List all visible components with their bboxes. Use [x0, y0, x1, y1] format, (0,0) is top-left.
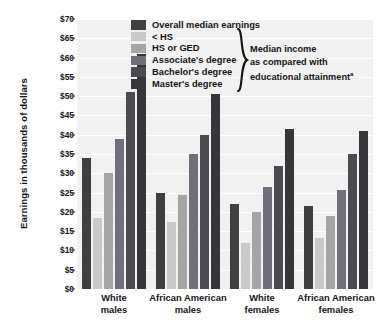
y-axis-tick-label: $70 [28, 14, 74, 24]
bar [126, 92, 136, 289]
y-axis-tick-mark [71, 96, 75, 97]
y-axis-tick-mark [71, 134, 75, 135]
y-axis-tick-mark [71, 38, 75, 39]
legend-item[interactable]: Overall median earnings [131, 19, 281, 31]
annotation-line-3-wrap: educational attainmenta [250, 68, 353, 84]
bar [326, 216, 336, 289]
y-axis-tick-mark [71, 192, 75, 193]
y-axis-tick-label: $15 [28, 226, 74, 236]
bar-chart: Earnings in thousands of dollars $0$5$10… [0, 0, 377, 335]
y-axis-tick-mark [71, 154, 75, 155]
bar [115, 139, 125, 289]
bar [156, 193, 166, 289]
y-axis-tick-label: $10 [28, 245, 74, 255]
y-axis-tick-label: $60 [28, 53, 74, 63]
bar [230, 204, 240, 289]
y-axis-tick-label: $30 [28, 168, 74, 178]
y-axis-tick-label: $50 [28, 91, 74, 101]
legend-swatch-icon [131, 56, 146, 66]
bar [241, 243, 251, 289]
y-axis-title: Earnings in thousands of dollars [18, 34, 29, 274]
bar [211, 94, 221, 289]
y-axis-tick-mark [71, 57, 75, 58]
y-axis-tick-mark [71, 173, 75, 174]
bar [200, 135, 210, 289]
bar [348, 154, 358, 289]
y-axis-tick-mark [71, 289, 75, 290]
annotation-line-1: Median income [250, 43, 353, 56]
bar [104, 173, 114, 289]
legend-annotation: Median income as compared with education… [250, 43, 353, 84]
legend-label: Bachelor's degree [152, 67, 232, 77]
y-axis-tick-label: $35 [28, 149, 74, 159]
y-axis-tick-label: $55 [28, 72, 74, 82]
legend-label: Associate's degree [152, 55, 236, 65]
bar [315, 238, 325, 289]
footnote-marker: a [350, 71, 353, 77]
y-axis-tick-mark [71, 211, 75, 212]
y-axis-tick-mark [71, 115, 75, 116]
bar [252, 212, 262, 289]
y-axis-tick-mark [71, 231, 75, 232]
bar [337, 190, 347, 290]
bar [359, 131, 369, 289]
bar [189, 154, 199, 289]
x-axis-label-line: females [289, 304, 377, 316]
y-axis-tick-label: $40 [28, 130, 74, 140]
legend-swatch-icon [131, 67, 146, 77]
y-axis-tick-mark [71, 250, 75, 251]
x-axis-label: African Americanfemales [289, 292, 377, 315]
y-axis-tick-mark [71, 19, 75, 20]
legend-label: HS or GED [152, 43, 200, 53]
y-axis-tick-label: $45 [28, 110, 74, 120]
y-axis-tick-mark [71, 76, 75, 77]
bar [178, 195, 188, 289]
legend-swatch-icon [131, 44, 146, 54]
y-axis-tick-label: $25 [28, 188, 74, 198]
bar [263, 187, 273, 289]
legend-item[interactable]: < HS [131, 31, 281, 43]
bar [274, 166, 284, 289]
y-axis-tick-label: $20 [28, 207, 74, 217]
annotation-line-2: as compared with [250, 56, 353, 69]
legend-swatch-icon [131, 79, 146, 89]
y-axis-tick-label: $65 [28, 33, 74, 43]
bar [304, 206, 314, 289]
bar [93, 218, 103, 289]
legend-label: Master's degree [152, 79, 222, 89]
bar [167, 222, 177, 289]
annotation-line-3: educational attainment [250, 72, 350, 82]
legend-swatch-icon [131, 32, 146, 42]
legend-label: < HS [152, 32, 173, 42]
x-axis-label-line: African American [289, 292, 377, 304]
bar [285, 129, 295, 289]
bar [82, 158, 92, 289]
legend-swatch-icon [131, 20, 146, 30]
y-axis-tick-label: $5 [28, 265, 74, 275]
brace-icon [236, 28, 250, 92]
y-axis-tick-mark [71, 269, 75, 270]
